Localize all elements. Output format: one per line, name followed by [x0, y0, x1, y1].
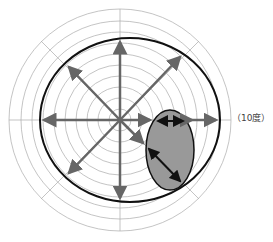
diagram: （10度）	[0, 0, 273, 242]
scale-label: （10度）	[232, 111, 270, 124]
